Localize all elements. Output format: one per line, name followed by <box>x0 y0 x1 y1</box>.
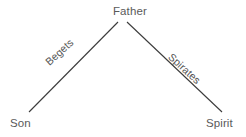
node-label-son: Son <box>10 118 31 130</box>
node-label-father: Father <box>113 6 147 18</box>
diagram-canvas: Father Son Spirit Begets Spirates <box>0 0 246 137</box>
node-label-spirit: Spirit <box>206 118 233 130</box>
edge-line-begets <box>29 22 118 112</box>
